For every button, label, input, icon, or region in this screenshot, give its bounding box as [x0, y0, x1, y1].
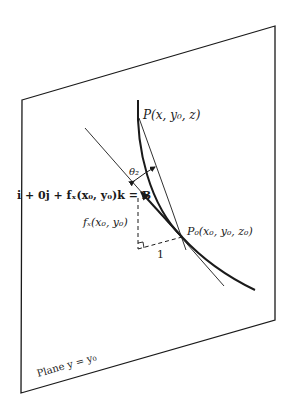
right-angle-marker [138, 242, 144, 248]
vector-B-label: i + 0j + fₓ(x₀, y₀)k = B [17, 189, 151, 202]
angle-theta2-label: θ₂ [129, 166, 139, 177]
secant-line-ext [172, 210, 186, 250]
plane-diagram: P(x, y₀, z) θ₂ i + 0j + fₓ(x₀, y₀)k = B … [0, 0, 294, 416]
point-P0-label: P₀(x₀, y₀, z₀) [186, 225, 253, 238]
point-P-label: P(x, y₀, z) [142, 108, 201, 122]
run-label: 1 [157, 248, 164, 261]
plane-label: Plane y = y₀ [36, 351, 98, 379]
plane-outline [21, 26, 275, 185]
rise-label: fₓ(x₀, y₀) [82, 216, 128, 229]
plane-outline [21, 26, 275, 393]
surface-trace-curve [138, 100, 255, 290]
